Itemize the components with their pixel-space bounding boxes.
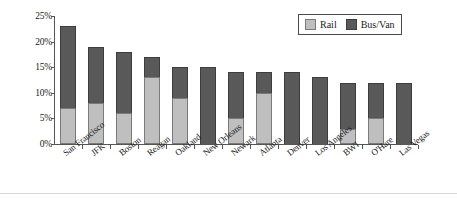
legend-item-bus-van: Bus/Van — [346, 19, 395, 30]
bar-segment-rail — [144, 77, 160, 144]
legend-swatch-rail-icon — [305, 19, 316, 30]
stacked-bar-chart: 0%5%10%15%20%25% San FranciscoJFKBostonR… — [0, 0, 457, 219]
bar-segment-bus-van — [368, 83, 384, 119]
y-axis-tick-label: 20% — [4, 37, 52, 47]
y-axis-tick-label: 25% — [4, 11, 52, 21]
bar-segment-bus-van — [256, 72, 272, 92]
x-axis-tick-mark — [362, 145, 363, 149]
y-axis-tick-label: 0% — [4, 139, 52, 149]
bar-column — [200, 67, 216, 144]
y-axis-tick-mark — [51, 144, 55, 145]
y-axis-tick-label: 5% — [4, 113, 52, 123]
footer-rule — [0, 193, 457, 194]
bar-column — [256, 72, 272, 144]
bar-column — [284, 72, 300, 144]
bar-segment-bus-van — [172, 67, 188, 98]
bar-segment-bus-van — [312, 77, 328, 144]
bar-segment-bus-van — [284, 72, 300, 144]
bar-segment-bus-van — [116, 52, 132, 113]
legend-swatch-bus-van-icon — [346, 19, 357, 30]
bar-column — [144, 57, 160, 144]
bar-column — [312, 77, 328, 144]
bar-column — [172, 67, 188, 144]
bar-segment-rail — [172, 98, 188, 144]
bar-segment-bus-van — [200, 67, 216, 144]
y-axis-tick-label: 15% — [4, 62, 52, 72]
y-axis-tick-labels: 0%5%10%15%20%25% — [0, 0, 52, 219]
bar-segment-bus-van — [340, 83, 356, 129]
bar-column — [396, 83, 412, 144]
legend-label-bus-van: Bus/Van — [361, 19, 395, 30]
legend-label-rail: Rail — [320, 19, 337, 30]
bar-column — [368, 83, 384, 144]
x-axis-tick-mark — [110, 145, 111, 149]
bar-column — [116, 52, 132, 144]
chart-legend: Rail Bus/Van — [298, 14, 402, 35]
bar-segment-bus-van — [144, 57, 160, 77]
bar-column — [60, 26, 76, 144]
bar-segment-bus-van — [396, 83, 412, 144]
bar-segment-bus-van — [60, 26, 76, 108]
bar-segment-bus-van — [228, 72, 244, 118]
bar-segment-bus-van — [88, 47, 104, 103]
bar-segment-rail — [256, 93, 272, 144]
y-axis-tick-label: 10% — [4, 88, 52, 98]
legend-item-rail: Rail — [305, 19, 337, 30]
